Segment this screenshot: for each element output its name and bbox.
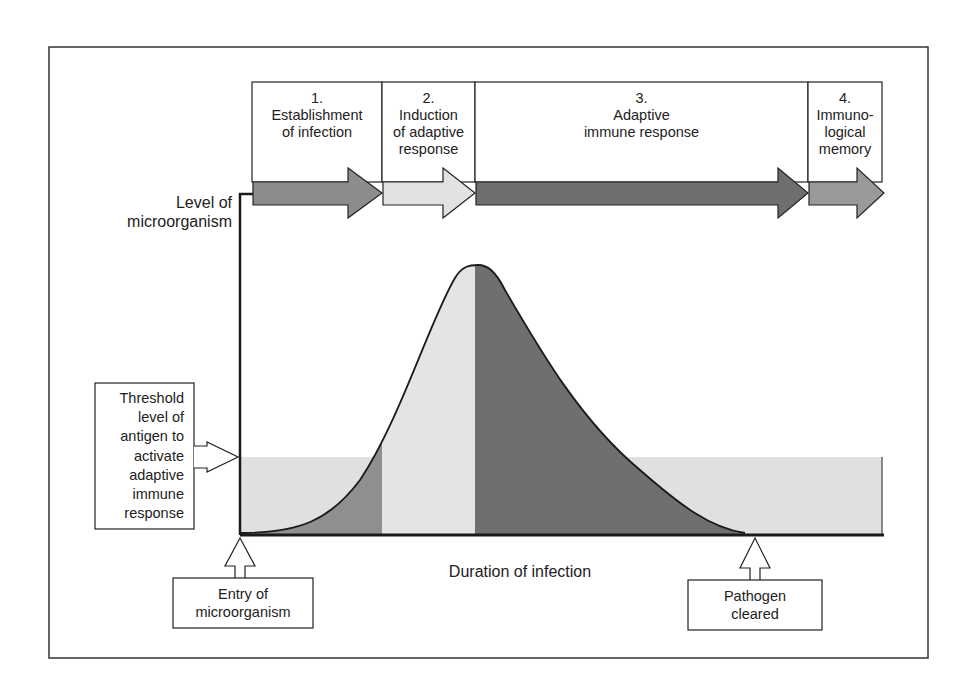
cleared-line: cleared <box>688 605 822 623</box>
stage-3-label: 3. Adaptive immune response <box>475 90 808 141</box>
entry-line: microorganism <box>173 603 313 621</box>
stage-4-label: 4. Immuno- logical memory <box>808 90 882 158</box>
stage-2-line2: of adaptive <box>382 124 475 141</box>
threshold-callout-text: Threshold level of antigen to activate a… <box>98 389 184 523</box>
stage-1-number: 1. <box>252 90 382 107</box>
threshold-line: response <box>98 504 184 523</box>
stage-1-label: 1. Establishment of infection <box>252 90 382 141</box>
threshold-line: antigen to <box>98 427 184 446</box>
stage-2-label: 2. Induction of adaptive response <box>382 90 475 158</box>
stage-3-number: 3. <box>475 90 808 107</box>
y-axis-label: Level of microorganism <box>110 193 232 231</box>
entry-arrow-icon <box>225 538 255 578</box>
cleared-arrow-icon <box>740 538 770 580</box>
threshold-line: level of <box>98 408 184 427</box>
threshold-arrow-icon <box>194 442 238 472</box>
threshold-line: adaptive <box>98 466 184 485</box>
stage-2-number: 2. <box>382 90 475 107</box>
diagram-canvas: 1. Establishment of infection 2. Inducti… <box>0 0 969 691</box>
y-axis-label-line2: microorganism <box>110 212 232 231</box>
x-axis-label: Duration of infection <box>420 563 620 580</box>
stage-2-line3: response <box>382 141 475 158</box>
y-axis-label-line1: Level of <box>110 193 232 212</box>
stage-1-line1: Establishment <box>252 107 382 124</box>
threshold-line: Threshold <box>98 389 184 408</box>
threshold-line: immune <box>98 485 184 504</box>
threshold-line: activate <box>98 447 184 466</box>
stage-2-line1: Induction <box>382 107 475 124</box>
stage-4-line2: logical <box>808 124 882 141</box>
entry-line: Entry of <box>173 585 313 603</box>
cleared-callout-text: Pathogen cleared <box>688 587 822 623</box>
stage-3-line1: Adaptive <box>475 107 808 124</box>
stage-4-line3: memory <box>808 141 882 158</box>
entry-callout-text: Entry of microorganism <box>173 585 313 621</box>
stage-3-line2: immune response <box>475 124 808 141</box>
stage-1-line2: of infection <box>252 124 382 141</box>
stage-4-number: 4. <box>808 90 882 107</box>
cleared-line: Pathogen <box>688 587 822 605</box>
stage-4-line1: Immuno- <box>808 107 882 124</box>
